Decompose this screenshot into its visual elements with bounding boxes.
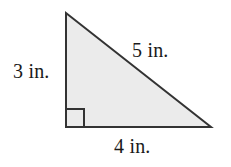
label-horizontal-leg: 4 in. [114, 136, 151, 156]
triangle-shape [66, 13, 211, 127]
right-triangle-figure: 3 in. 5 in. 4 in. [0, 0, 231, 167]
label-vertical-leg: 3 in. [13, 61, 50, 81]
label-hypotenuse: 5 in. [132, 40, 169, 60]
